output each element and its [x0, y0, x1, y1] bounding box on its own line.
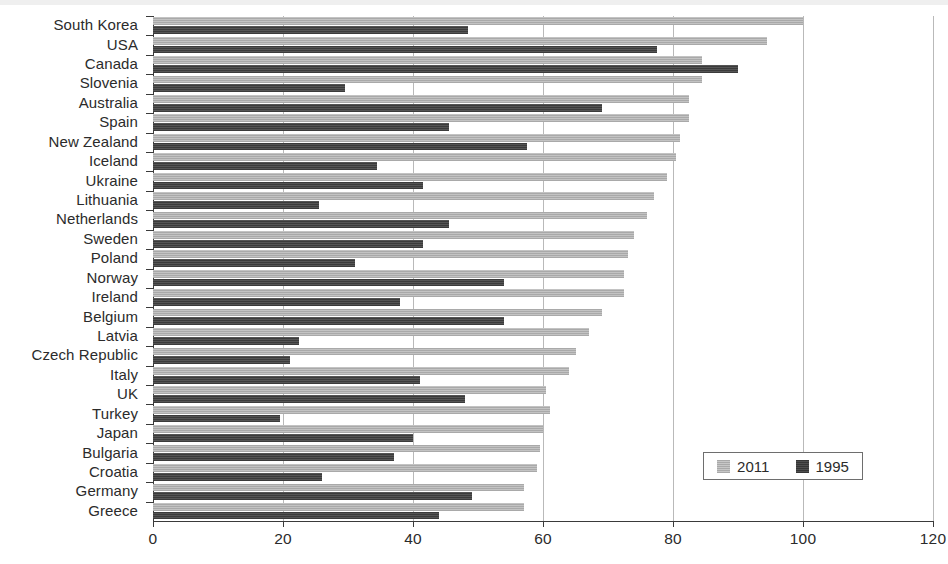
x-tick-100: [803, 521, 804, 527]
bar-1995: [153, 298, 400, 306]
bar-1995: [153, 259, 355, 267]
y-tick: [146, 404, 153, 405]
bar-2011: [153, 114, 689, 122]
bar-2011: [153, 289, 624, 297]
bar-2011: [153, 270, 624, 278]
chart-row: Iceland: [0, 152, 948, 171]
x-tick-60: [543, 521, 544, 527]
category-label: UK: [0, 385, 138, 402]
y-tick: [146, 16, 153, 17]
legend-label-1995: 1995: [816, 458, 849, 475]
bar-1995: [153, 46, 657, 54]
legend-swatch-1995-icon: [796, 460, 809, 473]
bar-1995: [153, 201, 319, 209]
scan-artifact-strip: [0, 0, 948, 5]
bar-1995: [153, 220, 449, 228]
y-tick: [146, 346, 153, 347]
y-tick: [146, 113, 153, 114]
legend-swatch-2011-icon: [717, 460, 730, 473]
bar-2011: [153, 445, 540, 453]
category-label: Poland: [0, 249, 138, 266]
chart-row: Spain: [0, 113, 948, 132]
category-label: Turkey: [0, 405, 138, 422]
bar-1995: [153, 240, 423, 248]
x-tick-80: [673, 521, 674, 527]
chart-row: USA: [0, 35, 948, 54]
y-tick: [146, 94, 153, 95]
chart-row: Poland: [0, 249, 948, 268]
chart-row: South Korea: [0, 16, 948, 35]
bar-2011: [153, 95, 689, 103]
bar-1995: [153, 182, 423, 190]
category-label: Slovenia: [0, 74, 138, 91]
bar-1995: [153, 415, 280, 423]
category-label: Australia: [0, 94, 138, 111]
bar-1995: [153, 434, 413, 442]
category-label: Bulgaria: [0, 444, 138, 461]
category-label: Italy: [0, 366, 138, 383]
x-tick-label-60: 60: [534, 530, 552, 548]
chart-row: Germany: [0, 482, 948, 501]
category-label: Ukraine: [0, 172, 138, 189]
bar-2011: [153, 464, 537, 472]
y-tick: [146, 230, 153, 231]
bar-1995: [153, 453, 394, 461]
bar-1995: [153, 162, 377, 170]
bar-1995: [153, 317, 504, 325]
chart-row: Ireland: [0, 288, 948, 307]
bar-1995: [153, 492, 472, 500]
category-label: Greece: [0, 502, 138, 519]
legend-label-2011: 2011: [737, 458, 769, 475]
category-label: Ireland: [0, 288, 138, 305]
chart-row: Greece: [0, 502, 948, 521]
chart-row: Ukraine: [0, 171, 948, 190]
chart-row: Lithuania: [0, 191, 948, 210]
bar-2011: [153, 173, 667, 181]
x-tick-120: [933, 521, 934, 527]
chart-row: Canada: [0, 55, 948, 74]
chart-row: Slovenia: [0, 74, 948, 93]
bar-1995: [153, 337, 299, 345]
category-label: New Zealand: [0, 133, 138, 150]
chart-row: Netherlands: [0, 210, 948, 229]
chart-row: Norway: [0, 269, 948, 288]
bar-2011: [153, 17, 803, 25]
y-tick: [146, 385, 153, 386]
bar-2011: [153, 212, 647, 220]
bar-1995: [153, 356, 290, 364]
bar-1995: [153, 512, 439, 520]
chart-row: UK: [0, 385, 948, 404]
category-label: Lithuania: [0, 191, 138, 208]
bar-2011: [153, 328, 589, 336]
bar-2011: [153, 37, 767, 45]
x-tick-0: [153, 521, 154, 527]
bar-2011: [153, 503, 524, 511]
y-tick: [146, 152, 153, 153]
chart-row: Latvia: [0, 327, 948, 346]
y-tick: [146, 133, 153, 134]
x-tick-20: [283, 521, 284, 527]
legend-item-2011: 2011: [717, 458, 769, 475]
category-label: Latvia: [0, 327, 138, 344]
y-tick: [146, 366, 153, 367]
chart-row: Australia: [0, 94, 948, 113]
chart-row: Belgium: [0, 307, 948, 326]
x-tick-40: [413, 521, 414, 527]
category-label: Croatia: [0, 463, 138, 480]
category-label: South Korea: [0, 16, 138, 33]
bar-2011: [153, 367, 569, 375]
bar-2011: [153, 425, 543, 433]
y-tick: [146, 443, 153, 444]
bar-2011: [153, 76, 702, 84]
bar-1995: [153, 376, 420, 384]
bar-2011: [153, 348, 576, 356]
category-label: Sweden: [0, 230, 138, 247]
y-tick: [146, 502, 153, 503]
bar-1995: [153, 26, 468, 34]
bar-1995: [153, 123, 449, 131]
x-tick-label-120: 120: [920, 530, 946, 548]
category-label: Germany: [0, 482, 138, 499]
chart-row: Japan: [0, 424, 948, 443]
x-tick-label-80: 80: [664, 530, 682, 548]
chart-row: Turkey: [0, 404, 948, 423]
